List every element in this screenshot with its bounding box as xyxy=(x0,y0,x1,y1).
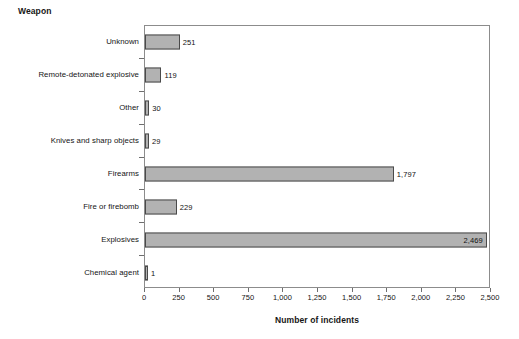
bar-value-label: 2,469 xyxy=(463,235,482,244)
bar-value-label: 1 xyxy=(151,268,155,277)
category-label: Remote-detonated explosive xyxy=(4,70,139,79)
value-tick-label: 1,750 xyxy=(377,293,396,302)
category-tick xyxy=(139,255,144,256)
bar-row: 30 xyxy=(145,92,489,125)
value-tick-label: 250 xyxy=(172,293,185,302)
value-tick xyxy=(386,288,387,292)
bar-value-label: 251 xyxy=(183,38,196,47)
bar-value-label: 1,797 xyxy=(397,169,416,178)
value-tick xyxy=(421,288,422,292)
category-tick xyxy=(139,91,144,92)
value-tick xyxy=(317,288,318,292)
category-label: Chemical agent xyxy=(4,267,139,276)
value-tick-label: 0 xyxy=(142,293,146,302)
value-tick-label: 2,500 xyxy=(480,293,499,302)
bar xyxy=(145,232,487,247)
category-tick xyxy=(139,58,144,59)
value-tick-label: 750 xyxy=(241,293,254,302)
category-tick xyxy=(139,222,144,223)
category-label: Firearms xyxy=(4,168,139,177)
value-tick xyxy=(352,288,353,292)
bar-value-label: 119 xyxy=(164,71,176,80)
bar xyxy=(145,199,177,214)
bar-row: 1 xyxy=(145,256,489,289)
category-label: Knives and sharp objects xyxy=(4,136,139,145)
value-tick xyxy=(282,288,283,292)
horizontal-bar-chart: Weapon 25111930291,7972292,4691 UnknownR… xyxy=(0,0,519,339)
category-axis-title: Weapon xyxy=(18,6,52,16)
bar-row: 2,469 xyxy=(145,223,489,256)
value-tick xyxy=(490,288,491,292)
category-label: Other xyxy=(4,103,139,112)
bar-value-label: 29 xyxy=(152,137,161,146)
value-tick-label: 1,500 xyxy=(342,293,361,302)
value-tick-label: 2,250 xyxy=(446,293,465,302)
bar xyxy=(145,166,394,181)
bar-value-label: 229 xyxy=(180,202,193,211)
bar-row: 119 xyxy=(145,59,489,92)
value-tick xyxy=(144,288,145,292)
bar xyxy=(145,134,149,149)
bar-row: 29 xyxy=(145,125,489,158)
value-tick-label: 1,250 xyxy=(307,293,326,302)
bar-row: 229 xyxy=(145,190,489,223)
category-tick xyxy=(139,157,144,158)
bar xyxy=(145,35,180,50)
bar-row: 1,797 xyxy=(145,158,489,191)
value-axis-title: Number of incidents xyxy=(144,315,490,325)
bar-row: 251 xyxy=(145,26,489,59)
value-tick-label: 1,000 xyxy=(273,293,292,302)
bar xyxy=(145,68,161,83)
category-tick xyxy=(139,124,144,125)
category-label: Fire or firebomb xyxy=(4,201,139,210)
bar xyxy=(145,101,149,116)
bar xyxy=(145,265,148,280)
value-tick xyxy=(213,288,214,292)
bar-value-label: 30 xyxy=(152,104,161,113)
category-label: Unknown xyxy=(4,37,139,46)
value-tick xyxy=(455,288,456,292)
category-tick xyxy=(139,189,144,190)
value-tick-label: 500 xyxy=(207,293,220,302)
value-tick xyxy=(179,288,180,292)
plot-area: 25111930291,7972292,4691 xyxy=(144,25,490,288)
value-tick-label: 2,000 xyxy=(411,293,430,302)
value-tick xyxy=(248,288,249,292)
category-label: Explosives xyxy=(4,234,139,243)
